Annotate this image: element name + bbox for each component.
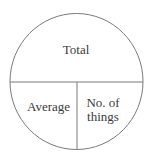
circle-outline [0, 0, 151, 160]
number-of-things-line1: No. of [80, 96, 126, 110]
formula-circle-diagram: Total Average No. of things [0, 0, 151, 160]
average-label: Average [20, 100, 77, 114]
number-of-things-line2: things [80, 110, 126, 124]
number-of-things-label: No. of things [80, 96, 126, 124]
total-label: Total [51, 43, 101, 57]
